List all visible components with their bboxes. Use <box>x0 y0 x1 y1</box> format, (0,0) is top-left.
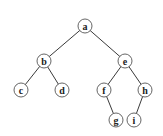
node-label: e <box>123 56 128 67</box>
tree-node-a: a <box>78 19 92 33</box>
tree-node-e: e <box>118 54 132 68</box>
node-label: d <box>59 85 65 96</box>
tree-node-g: g <box>109 113 123 127</box>
node-label: b <box>41 56 47 67</box>
edge-a-e <box>85 26 125 61</box>
node-label: g <box>114 115 119 126</box>
tree-node-i: i <box>127 113 141 127</box>
tree-node-c: c <box>14 83 28 97</box>
binary-tree-diagram: abecdfhgi <box>0 0 163 136</box>
tree-node-b: b <box>37 54 51 68</box>
edge-a-b <box>44 26 85 61</box>
tree-edges <box>21 26 145 120</box>
tree-node-f: f <box>97 83 111 97</box>
tree-node-h: h <box>138 83 152 97</box>
node-label: a <box>83 21 88 32</box>
node-label: i <box>133 115 136 126</box>
node-label: c <box>19 85 24 96</box>
node-label: h <box>142 85 148 96</box>
tree-node-d: d <box>55 83 69 97</box>
